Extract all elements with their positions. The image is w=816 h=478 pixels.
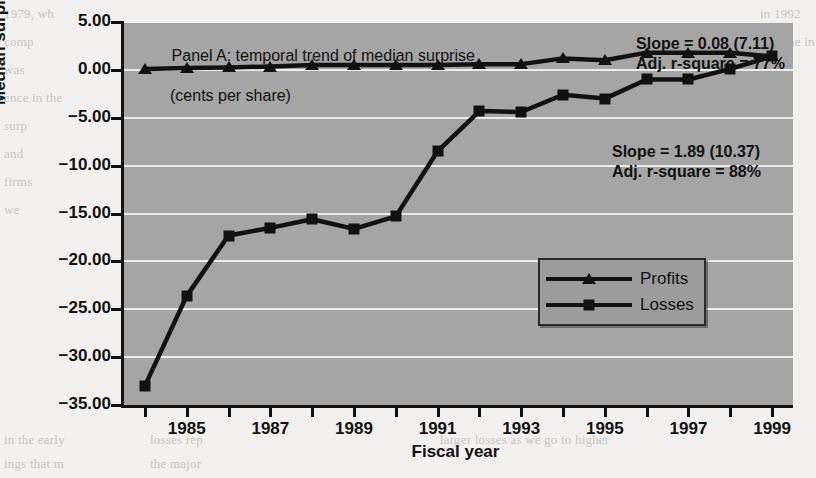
chart-figure: Median surprise (cents/share) Panel A: t… <box>0 0 816 478</box>
x-axis-tick <box>186 405 189 417</box>
legend-item-losses: Losses <box>546 292 694 318</box>
x-axis-tick <box>437 405 440 417</box>
y-axis-tick-label: −10.00 <box>59 155 111 175</box>
square-marker <box>516 107 527 118</box>
x-axis-tick <box>604 405 607 417</box>
x-axis-tick <box>269 405 272 417</box>
square-marker <box>390 211 401 222</box>
x-axis-tick <box>729 405 732 417</box>
x-axis-tick <box>144 405 147 417</box>
y-axis-tick <box>111 117 124 120</box>
x-axis-title: Fiscal year <box>121 442 790 462</box>
annotation-profits: Slope = 0.08 (7.11) Adj. r-square = 77% <box>636 34 785 73</box>
square-marker <box>348 223 359 234</box>
y-axis-tick-label: −35.00 <box>59 394 111 414</box>
x-axis-tick-label: 1987 <box>251 419 289 439</box>
x-axis-tick-label: 1985 <box>168 419 206 439</box>
x-axis-tick <box>646 405 649 417</box>
panel-title-line1: Panel A: temporal trend of median surpri… <box>172 47 475 64</box>
x-axis-tick-label: 1999 <box>753 419 791 439</box>
y-axis-tick-label: 5.00 <box>78 11 111 31</box>
x-axis-tick <box>687 405 690 417</box>
square-marker <box>265 222 276 233</box>
chart-legend: Profits Losses <box>538 258 706 326</box>
triangle-marker <box>514 58 528 69</box>
x-axis-tick <box>478 405 481 417</box>
y-axis-tick <box>111 404 124 407</box>
x-axis-tick <box>771 405 774 417</box>
square-marker <box>181 290 192 301</box>
y-axis-tick-label: −15.00 <box>59 203 111 223</box>
panel-title-line2: (cents per share) <box>136 86 475 106</box>
square-marker <box>223 230 234 241</box>
x-axis-ticks-and-labels: 19851987198919911993199519971999 <box>124 405 793 445</box>
y-axis-tick <box>111 308 124 311</box>
triangle-marker-icon <box>546 270 632 288</box>
legend-label-profits: Profits <box>640 269 688 289</box>
annotation-losses-rsquare: Adj. r-square = 88% <box>612 162 761 182</box>
y-axis-tick <box>111 213 124 216</box>
y-axis-tick <box>111 165 124 168</box>
plot-inner: Panel A: temporal trend of median surpri… <box>124 22 793 405</box>
legend-label-losses: Losses <box>640 295 694 315</box>
square-marker <box>641 74 652 85</box>
x-axis-tick-label: 1993 <box>502 419 540 439</box>
y-axis-tick <box>111 21 124 24</box>
annotation-profits-rsquare: Adj. r-square = 77% <box>636 54 785 74</box>
triangle-marker <box>598 54 612 65</box>
square-marker <box>474 106 485 117</box>
square-marker <box>558 89 569 100</box>
x-axis-tick-label: 1991 <box>419 419 457 439</box>
y-axis-tick <box>111 69 124 72</box>
annotation-profits-slope: Slope = 0.08 (7.11) <box>636 34 785 54</box>
x-axis-tick <box>520 405 523 417</box>
x-axis-tick <box>311 405 314 417</box>
x-axis-tick-label: 1997 <box>670 419 708 439</box>
square-marker <box>139 380 150 391</box>
annotation-losses: Slope = 1.89 (10.37) Adj. r-square = 88% <box>612 142 761 181</box>
x-axis-tick-label: 1995 <box>586 419 624 439</box>
legend-item-profits: Profits <box>546 266 694 292</box>
x-axis-tick <box>228 405 231 417</box>
y-axis-tick <box>111 260 124 263</box>
square-marker <box>683 74 694 85</box>
triangle-marker <box>556 52 570 63</box>
x-axis-tick-label: 1989 <box>335 419 373 439</box>
y-axis-tick-label: 0.00 <box>78 59 111 79</box>
plot-area: Panel A: temporal trend of median surpri… <box>121 22 793 408</box>
x-axis-tick <box>562 405 565 417</box>
y-axis-tick-label: −5.00 <box>68 107 111 127</box>
y-axis-tick-label: −30.00 <box>59 346 111 366</box>
annotation-losses-slope: Slope = 1.89 (10.37) <box>612 142 761 162</box>
square-marker <box>307 214 318 225</box>
panel-title: Panel A: temporal trend of median surpri… <box>136 26 475 146</box>
y-axis-tick-label: −20.00 <box>59 250 111 270</box>
y-axis-tick <box>111 356 124 359</box>
y-axis-tick-label: −25.00 <box>59 298 111 318</box>
x-axis-tick <box>353 405 356 417</box>
y-axis-title: Median surprise (cents/share) <box>0 0 10 105</box>
square-marker-icon <box>546 296 632 314</box>
square-marker <box>599 93 610 104</box>
square-marker <box>432 146 443 157</box>
x-axis-tick <box>395 405 398 417</box>
